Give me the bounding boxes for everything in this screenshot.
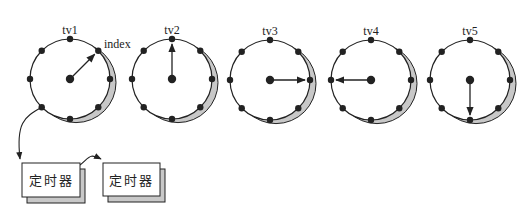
slot-dot (67, 116, 73, 122)
slot-dot (396, 49, 402, 55)
slot-dot (197, 48, 203, 54)
slot-dot (197, 104, 203, 110)
slot-dot (328, 77, 334, 83)
diagram-canvas: tv1tv2tv3tv4tv5index 定时器定时器 (0, 0, 529, 212)
link-arrow-timer-to-timer (80, 156, 101, 165)
slot-dot (408, 77, 414, 83)
timer-label: 定时器 (109, 173, 154, 188)
slot-dot (467, 117, 473, 123)
wheel-tv5: tv5 (427, 24, 516, 124)
wheel-label: tv3 (262, 24, 277, 38)
wheel-tv3: tv3 (227, 24, 316, 124)
index-label: index (104, 37, 131, 51)
slot-dot (267, 117, 273, 123)
slot-dot (396, 105, 402, 111)
wheel-tv4: tv4 (328, 24, 417, 124)
slot-dot (95, 104, 101, 110)
slot-dot (295, 105, 301, 111)
slot-dot (507, 77, 513, 83)
slot-dot (340, 49, 346, 55)
wheel-label: tv2 (164, 23, 179, 37)
slot-dot (307, 77, 313, 83)
slot-dot (39, 48, 45, 54)
wheel-label: tv1 (62, 23, 77, 37)
slot-dot (495, 105, 501, 111)
wheel-label: tv5 (462, 24, 477, 38)
link-arrow-slot-to-timer (19, 107, 42, 159)
wheel-tv2: tv2 (129, 23, 218, 123)
timer-label: 定时器 (29, 173, 74, 188)
wheel-label: tv4 (363, 24, 378, 38)
slot-dot (27, 76, 33, 82)
slot-dot (495, 49, 501, 55)
slot-dot (239, 49, 245, 55)
slot-dot (209, 76, 215, 82)
slot-dot (439, 105, 445, 111)
slot-dot (141, 48, 147, 54)
slot-dot (439, 49, 445, 55)
slot-dot (427, 77, 433, 83)
timing-wheel-diagram: tv1tv2tv3tv4tv5index 定时器定时器 (0, 0, 529, 212)
slot-dot (95, 48, 101, 54)
slot-dot (340, 105, 346, 111)
timers-layer: 定时器定时器 (22, 163, 165, 203)
slot-dot (239, 105, 245, 111)
slot-dot (227, 77, 233, 83)
wheels-layer: tv1tv2tv3tv4tv5index (27, 23, 516, 124)
slot-dot (129, 76, 135, 82)
slot-dot (295, 49, 301, 55)
timer-box: 定时器 (103, 163, 165, 202)
slot-dot (169, 116, 175, 122)
timer-box: 定时器 (22, 163, 85, 203)
slot-dot (368, 117, 374, 123)
slot-dot (141, 104, 147, 110)
slot-dot (107, 76, 113, 82)
